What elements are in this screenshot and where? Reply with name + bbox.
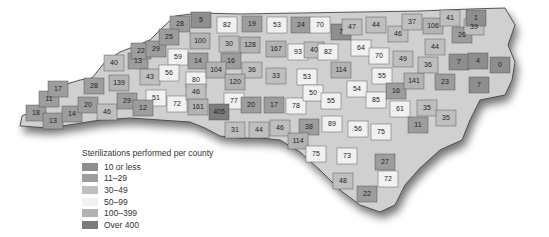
- county-value: 13: [134, 57, 142, 64]
- county-value: 55: [378, 72, 386, 79]
- legend-item: 10 or less: [82, 161, 213, 173]
- legend-label: 11–29: [104, 173, 127, 183]
- county-value: 14: [68, 110, 76, 117]
- county-value: 53: [273, 21, 281, 28]
- county-value: 120: [229, 78, 241, 85]
- county-value: 46: [276, 124, 284, 131]
- county-value: 75: [377, 128, 385, 135]
- county-value: 82: [324, 48, 332, 55]
- county-value: 77: [230, 97, 238, 104]
- county-value: 37: [408, 18, 416, 25]
- county-value: 33: [272, 72, 280, 79]
- county-value: 46: [394, 30, 402, 37]
- county-value: 17: [270, 101, 278, 108]
- county-value: 106: [427, 22, 439, 29]
- county-value: 51: [152, 94, 160, 101]
- county-value: 41: [446, 14, 454, 21]
- county-value: 46: [192, 88, 200, 95]
- county-value: 28: [176, 20, 184, 27]
- county-value: 61: [396, 105, 404, 112]
- map-legend: Sterilizations performed per county 10 o…: [82, 148, 213, 231]
- county-value: 20: [84, 101, 92, 108]
- county-value: 46: [103, 108, 111, 115]
- county-value: 85: [372, 96, 380, 103]
- county-value: 27: [381, 158, 389, 165]
- legend-swatch: [82, 186, 98, 194]
- county-value: 29: [123, 97, 131, 104]
- county-value: 80: [192, 76, 200, 83]
- county-value: 23: [441, 78, 449, 85]
- county-value: 19: [248, 20, 256, 27]
- county-value: 14: [194, 57, 202, 64]
- county-value: 26: [458, 31, 466, 38]
- county-value: 36: [424, 61, 432, 68]
- county-value: 31: [231, 126, 239, 133]
- county-value: 56: [165, 69, 173, 76]
- legend-title: Sterilizations performed per county: [82, 148, 213, 158]
- county-value: 44: [372, 21, 380, 28]
- county-value: 141: [408, 77, 420, 84]
- county-value: 4: [476, 57, 480, 64]
- legend-swatch: [82, 163, 98, 171]
- legend-item: 30–49: [82, 184, 213, 196]
- county-value: 405: [213, 108, 225, 115]
- county-value: 24: [297, 21, 305, 28]
- county-value: 7: [457, 58, 461, 65]
- county-value: 11: [414, 121, 421, 128]
- county-value: 38: [305, 123, 313, 130]
- legend-item: 11–29: [82, 173, 213, 185]
- county-value: 53: [303, 73, 311, 80]
- county-value: 5: [199, 16, 203, 23]
- legend-swatch: [82, 221, 98, 229]
- county-value: 93: [294, 48, 302, 55]
- county-value: 30: [225, 40, 233, 47]
- county-value: 78: [292, 102, 300, 109]
- county-value: 50: [309, 89, 317, 96]
- county-value: 75: [312, 150, 320, 157]
- county-value: 20: [247, 101, 255, 108]
- county-value: 49: [399, 55, 407, 62]
- county-value: 114: [292, 137, 303, 144]
- legend-item: Over 400: [82, 219, 213, 231]
- county-value: 55: [327, 97, 335, 104]
- county-value: 167: [270, 45, 282, 52]
- legend-swatch: [82, 174, 98, 182]
- county-value: 73: [343, 152, 351, 159]
- county-value: 7: [339, 28, 343, 35]
- county-value: 29: [152, 45, 160, 52]
- county-value: 16: [227, 57, 235, 64]
- county-value: 22: [363, 190, 371, 197]
- county-value: 44: [255, 126, 263, 133]
- county-value: 59: [174, 53, 182, 60]
- county-value: 72: [384, 175, 392, 182]
- county-value: 18: [32, 109, 40, 116]
- county-value: 35: [442, 114, 450, 121]
- legend-label: Over 400: [104, 220, 139, 230]
- county-value: 56: [354, 125, 362, 132]
- county-value: 47: [348, 23, 356, 30]
- county-value: 48: [339, 177, 347, 184]
- county-value: 100: [194, 37, 206, 44]
- county-value: 1: [474, 14, 478, 21]
- legend-swatch: [82, 198, 98, 206]
- county-value: 40: [310, 46, 318, 53]
- county-value: 82: [223, 21, 231, 28]
- county-value: 64: [357, 44, 365, 51]
- legend-rows: 10 or less11–2930–4950–99100–399Over 400: [82, 161, 213, 231]
- county-value: 40: [110, 59, 118, 66]
- county-value: 11: [45, 95, 52, 102]
- legend-label: 50–99: [104, 197, 128, 207]
- county-value: 17: [54, 85, 62, 92]
- county-value: 28: [90, 82, 98, 89]
- county-value: 44: [431, 43, 439, 50]
- county-value: 7: [477, 81, 481, 88]
- county-value: 70: [375, 52, 383, 59]
- county-value: 22: [137, 47, 145, 54]
- legend-label: 100–399: [104, 208, 137, 218]
- county-value: 114: [335, 66, 346, 73]
- county-value: 161: [192, 103, 204, 110]
- county-value: 25: [165, 33, 173, 40]
- county-value: 12: [139, 104, 147, 111]
- county-value: 70: [316, 21, 324, 28]
- legend-swatch: [82, 209, 98, 217]
